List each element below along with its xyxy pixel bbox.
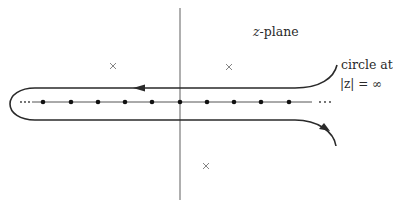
ellipsis-left (20, 101, 30, 103)
pole-x-icon (226, 64, 232, 70)
axis-point (178, 100, 183, 105)
axis-point (287, 100, 292, 105)
axis-point (96, 100, 101, 105)
annotation-line-2: |z| = ∞ (340, 78, 382, 90)
axis-point (150, 100, 155, 105)
axis-point (232, 100, 237, 105)
plane-label: z-plane (253, 26, 299, 39)
plane-label-text: -plane (260, 24, 299, 39)
axis-point (205, 100, 210, 105)
contour-path (10, 65, 337, 146)
contour-arrow-left-icon (133, 85, 145, 92)
ellipsis-right (319, 101, 331, 103)
pole-x-icon (110, 63, 116, 69)
plane-variable: z (253, 24, 260, 39)
axis-point (259, 100, 264, 105)
pole-x-icon (203, 163, 209, 169)
annotation-line-1: circle at (341, 59, 393, 72)
axis-point (69, 100, 74, 105)
axis-point (123, 100, 128, 105)
pole-markers (110, 63, 232, 169)
axis-point (41, 100, 46, 105)
